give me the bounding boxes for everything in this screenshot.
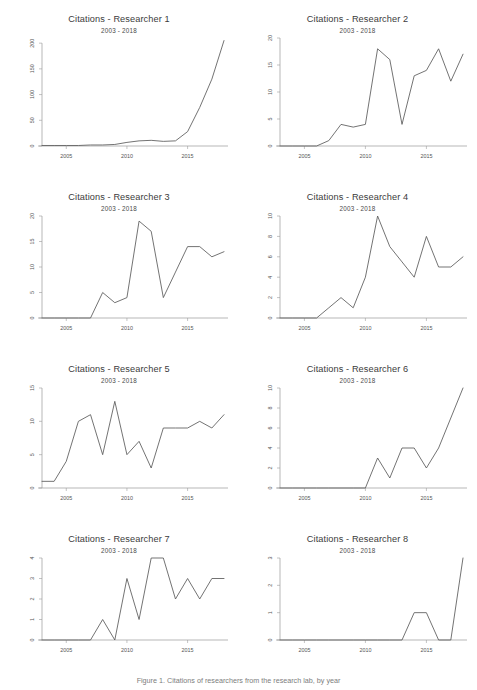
series-line [280, 388, 463, 488]
y-tick-label: 2 [267, 296, 273, 299]
plot-area: 200520102015051015 [0, 350, 238, 520]
series-line [42, 401, 224, 481]
y-tick-label: 20 [29, 213, 35, 219]
figure-container: Citations - Researcher 12003 - 201820052… [0, 0, 477, 690]
y-tick-label: 0 [267, 317, 273, 320]
chart-panel-4: Citations - Researcher 42003 - 201820052… [238, 178, 477, 350]
x-tick-label: 2005 [298, 495, 310, 501]
x-tick-label: 2010 [121, 153, 133, 159]
x-tick-label: 2015 [182, 495, 194, 501]
y-tick-label: 200 [29, 39, 35, 48]
plot-area: 2005201020150246810 [238, 178, 477, 350]
y-tick-label: 20 [267, 35, 273, 41]
y-tick-label: 100 [29, 90, 35, 99]
y-tick-label: 1 [29, 618, 35, 621]
y-tick-label: 5 [29, 453, 35, 456]
x-tick-label: 2015 [182, 325, 194, 331]
x-tick-label: 2005 [298, 153, 310, 159]
plot-area: 2005201020150123 [238, 520, 477, 672]
y-tick-label: 3 [267, 557, 273, 560]
y-tick-label: 10 [267, 385, 273, 391]
y-tick-label: 8 [267, 407, 273, 410]
plot-area: 20052010201505101520 [0, 178, 238, 350]
chart-panel-3: Citations - Researcher 32003 - 201820052… [0, 178, 238, 350]
x-tick-label: 2010 [121, 647, 133, 653]
x-tick-label: 2015 [182, 647, 194, 653]
series-line [42, 41, 224, 146]
y-tick-label: 0 [29, 317, 35, 320]
x-tick-label: 2010 [121, 325, 133, 331]
x-tick-label: 2010 [359, 153, 371, 159]
y-tick-label: 0 [267, 487, 273, 490]
y-tick-label: 10 [29, 264, 35, 270]
x-tick-label: 2005 [298, 325, 310, 331]
y-tick-label: 0 [29, 639, 35, 642]
y-tick-label: 5 [267, 118, 273, 121]
y-tick-label: 10 [267, 89, 273, 95]
y-tick-label: 0 [29, 487, 35, 490]
series-line [42, 558, 224, 640]
y-tick-label: 10 [267, 213, 273, 219]
y-tick-label: 2 [29, 598, 35, 601]
y-tick-label: 8 [267, 235, 273, 238]
x-tick-label: 2010 [359, 647, 371, 653]
x-tick-label: 2005 [60, 495, 72, 501]
x-tick-label: 2015 [420, 325, 432, 331]
y-tick-label: 0 [267, 639, 273, 642]
y-tick-label: 4 [267, 447, 273, 450]
x-tick-label: 2015 [420, 153, 432, 159]
y-tick-label: 15 [267, 62, 273, 68]
y-tick-label: 3 [29, 577, 35, 580]
y-tick-label: 4 [29, 557, 35, 560]
y-tick-label: 4 [267, 276, 273, 279]
y-tick-label: 2 [267, 584, 273, 587]
y-tick-label: 150 [29, 64, 35, 73]
chart-panel-2: Citations - Researcher 22003 - 201820052… [238, 0, 477, 178]
x-tick-label: 2005 [60, 153, 72, 159]
x-tick-label: 2005 [298, 647, 310, 653]
series-line [42, 221, 224, 318]
x-tick-label: 2010 [359, 325, 371, 331]
x-tick-label: 2015 [420, 495, 432, 501]
panel-grid: Citations - Researcher 12003 - 201820052… [0, 0, 477, 672]
y-tick-label: 15 [29, 385, 35, 391]
y-tick-label: 10 [29, 418, 35, 424]
chart-panel-6: Citations - Researcher 62003 - 201820052… [238, 350, 477, 520]
y-tick-label: 2 [267, 467, 273, 470]
y-tick-label: 0 [267, 145, 273, 148]
y-tick-label: 5 [29, 291, 35, 294]
plot-area: 2005201020150246810 [238, 350, 477, 520]
y-tick-label: 50 [29, 117, 35, 123]
y-tick-label: 0 [29, 145, 35, 148]
chart-panel-5: Citations - Researcher 52003 - 201820052… [0, 350, 238, 520]
series-line [280, 216, 463, 318]
plot-area: 20052010201505101520 [238, 0, 477, 178]
series-line [280, 558, 463, 640]
y-tick-label: 1 [267, 611, 273, 614]
chart-panel-1: Citations - Researcher 12003 - 201820052… [0, 0, 238, 178]
x-tick-label: 2015 [182, 153, 194, 159]
series-line [280, 49, 463, 146]
x-tick-label: 2015 [420, 647, 432, 653]
y-tick-label: 6 [267, 255, 273, 258]
plot-area: 20052010201501234 [0, 520, 238, 672]
plot-area: 200520102015050100150200 [0, 0, 238, 178]
figure-caption: Figure 1. Citations of researchers from … [0, 672, 477, 690]
chart-panel-8: Citations - Researcher 82003 - 201820052… [238, 520, 477, 672]
x-tick-label: 2010 [359, 495, 371, 501]
x-tick-label: 2005 [60, 325, 72, 331]
x-tick-label: 2005 [60, 647, 72, 653]
chart-panel-7: Citations - Researcher 72003 - 201820052… [0, 520, 238, 672]
y-tick-label: 15 [29, 239, 35, 245]
x-tick-label: 2010 [121, 495, 133, 501]
y-tick-label: 6 [267, 427, 273, 430]
